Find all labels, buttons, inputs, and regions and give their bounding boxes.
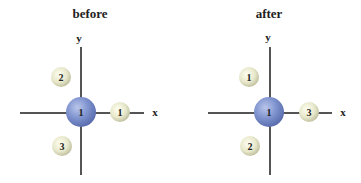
y-axis-label: y: [76, 32, 82, 44]
x-axis-label: x: [340, 106, 346, 118]
ball-1: 1: [239, 67, 259, 87]
before-panel: before y x 1 1 2 3: [0, 0, 180, 183]
after-panel: after y x 1 1 2 3: [180, 0, 360, 183]
center-sphere: 1: [66, 97, 96, 127]
ball-3: 3: [52, 136, 72, 156]
ball-1: 1: [110, 102, 130, 122]
panel-title: after: [256, 6, 283, 22]
ball-2: 2: [240, 136, 260, 156]
center-sphere: 1: [254, 97, 284, 127]
y-axis-label: y: [265, 31, 271, 43]
x-axis-label: x: [152, 106, 158, 118]
ball-2: 2: [51, 67, 71, 87]
panel-title: before: [72, 6, 107, 22]
ball-3: 3: [299, 102, 319, 122]
